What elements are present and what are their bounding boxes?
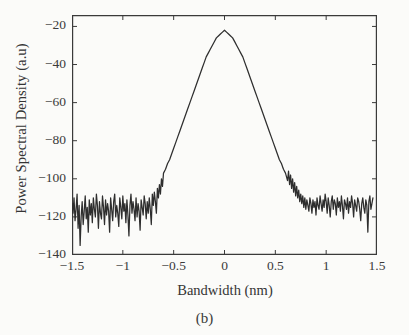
x-tick-label: 1 [304, 258, 348, 274]
x-axis-label: Bandwidth (nm) [72, 282, 378, 299]
y-tick-label: −80 [20, 132, 66, 148]
data-series-line [72, 30, 373, 245]
y-tick-label: −100 [20, 170, 66, 186]
x-tick-label: −1 [101, 258, 145, 274]
y-tick-label: −40 [20, 56, 66, 72]
figure-panel-b: Power Spectral Density (a.u) −1.5−1−0.50… [0, 0, 409, 335]
y-tick-label: −60 [20, 94, 66, 110]
y-tick-label: −140 [20, 246, 66, 262]
x-tick-label: 1.5 [355, 258, 399, 274]
figure-caption: (b) [0, 310, 409, 327]
spectrum-plot-svg [72, 15, 377, 255]
y-tick-label: −120 [20, 208, 66, 224]
x-tick-label: 0.5 [253, 258, 297, 274]
y-tick-label: −20 [20, 17, 66, 33]
plot-area [72, 15, 377, 255]
x-tick-label: −0.5 [152, 258, 196, 274]
x-tick-label: 0 [203, 258, 247, 274]
